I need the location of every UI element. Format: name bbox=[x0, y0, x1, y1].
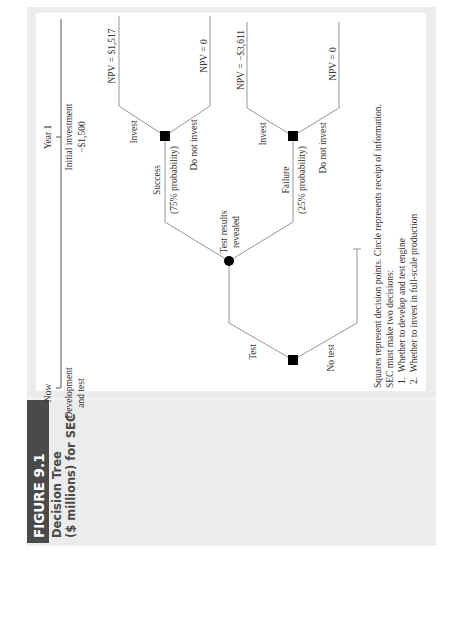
year1-event-line2: −$1,500 bbox=[77, 121, 87, 153]
decision-tree-figure: FIGURE 9.1 Decision Tree ($ millions) fo… bbox=[0, 0, 450, 622]
root-decision-node bbox=[288, 355, 298, 365]
chance-node-label-line2: revealed bbox=[231, 216, 241, 248]
now-event-line1: Development bbox=[64, 367, 74, 419]
failure-decision-node bbox=[288, 131, 298, 141]
notes-line2: SEC must make two decisions: bbox=[385, 270, 395, 388]
success-probability-label: (75% probability) bbox=[169, 146, 180, 214]
no-test-branch-label: No test bbox=[326, 344, 336, 372]
chance-node-label-line1: Test results bbox=[219, 210, 229, 253]
notes-line1: Squares represent decision points. Circl… bbox=[373, 104, 383, 388]
failure-branch-label: Failure bbox=[281, 167, 291, 194]
chance-node bbox=[224, 256, 234, 266]
failure-do-not-invest-npv: NPV = 0 bbox=[328, 47, 338, 81]
figure-title-line1: Decision Tree bbox=[50, 451, 64, 538]
figure-number-label: FIGURE 9.1 bbox=[31, 453, 47, 538]
success-do-not-invest-npv: NPV = 0 bbox=[199, 39, 209, 73]
notes-item2: 2. Whether to invest in full-scale produ… bbox=[409, 213, 419, 384]
failure-probability-label: (25% probability) bbox=[297, 146, 308, 214]
figure-title-line2: ($ millions) for SEC bbox=[64, 414, 78, 538]
failure-invest-label: Invest bbox=[258, 122, 268, 146]
success-decision-node bbox=[160, 131, 170, 141]
success-invest-npv: NPV = $1,517 bbox=[107, 28, 117, 83]
diagram-area bbox=[36, 13, 426, 391]
test-branch-label: Test bbox=[248, 344, 258, 360]
timeline-year1-label: Year 1 bbox=[43, 124, 53, 149]
success-branch-label: Success bbox=[152, 165, 162, 195]
year1-event-line1: Initial investment bbox=[64, 103, 74, 170]
failure-invest-npv: NPV = −$3,611 bbox=[236, 30, 246, 90]
success-do-not-invest-label: Do not invest bbox=[189, 119, 199, 171]
success-invest-label: Invest bbox=[129, 120, 139, 144]
notes-item1: 1. Whether to develop and test engine bbox=[397, 238, 407, 384]
now-event-line2: and test bbox=[76, 378, 86, 408]
timeline-now-label: Now bbox=[43, 384, 53, 403]
failure-do-not-invest-label: Do not invest bbox=[318, 122, 328, 174]
